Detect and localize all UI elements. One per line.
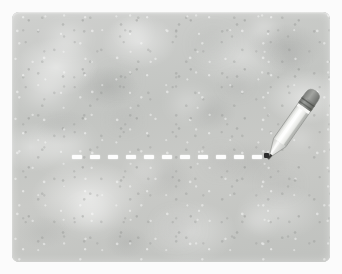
pencil [262,82,322,168]
dash-segment [180,155,190,159]
dash-segment [198,155,208,159]
dash-segment [252,155,262,159]
scene-root: Pencil drawing a dashed line on a gray s… [0,0,342,274]
dash-segment [108,155,118,159]
dash-segment [144,155,154,159]
pencil-group [262,86,322,163]
dash-segment [234,155,244,159]
dash-segment [126,155,136,159]
graphite-point [264,153,269,158]
dash-segment [216,155,226,159]
dash-segment [72,155,82,159]
dash-segment [90,155,100,159]
dash-segment [162,155,172,159]
pencil-svg [262,82,322,168]
